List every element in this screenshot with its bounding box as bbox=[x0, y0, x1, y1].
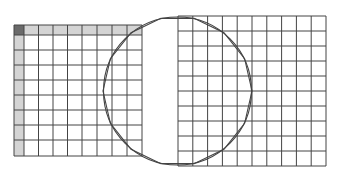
grid-circle-diagram bbox=[0, 0, 337, 179]
header-row-fill bbox=[14, 25, 142, 35]
corner-cell bbox=[14, 25, 24, 35]
header-column-fill bbox=[14, 25, 24, 156]
